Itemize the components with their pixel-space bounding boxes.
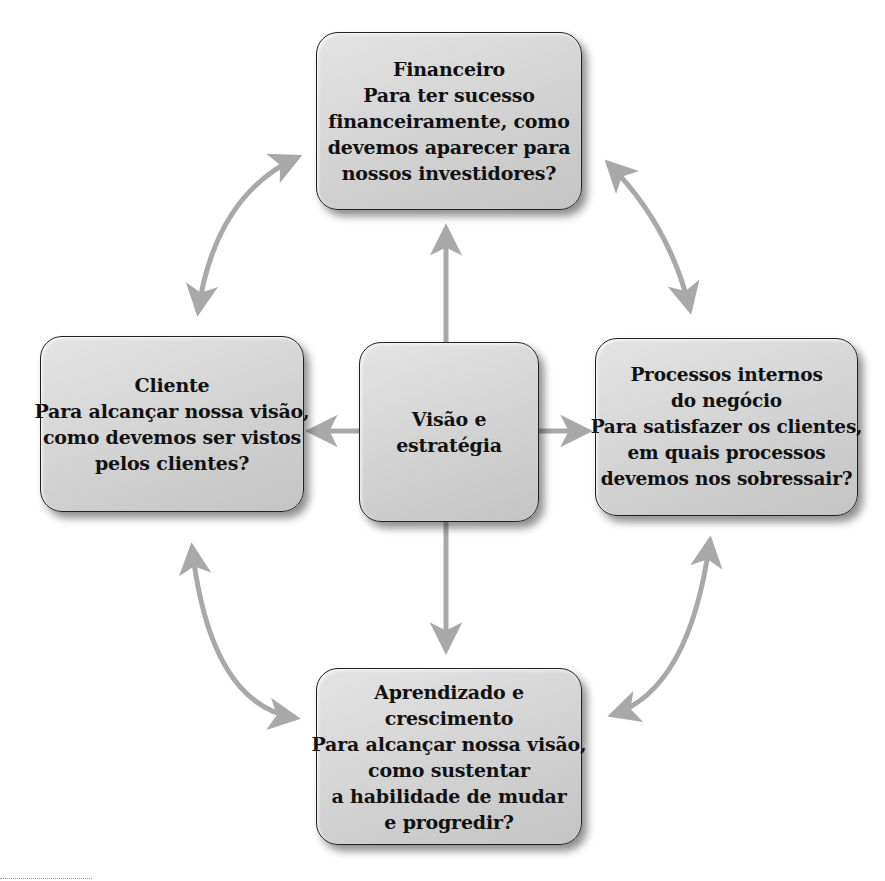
perspective-learning-growth-text: Aprendizado e crescimento Para alcançar … xyxy=(312,679,587,835)
perspective-title: crescimento xyxy=(385,705,513,731)
perspective-customer-text: Cliente Para alcançar nossa visão, como … xyxy=(35,372,310,476)
perspective-customer-box: Cliente Para alcançar nossa visão, como … xyxy=(40,336,304,512)
curved-arrow-right-bottom xyxy=(612,540,710,715)
perspective-financial-box: Financeiro Para ter sucesso financeirame… xyxy=(316,32,582,210)
perspective-internal-process-box: Processos internos do negócio Para satis… xyxy=(595,338,858,516)
perspective-question-line: devemos nos sobressair? xyxy=(601,466,853,492)
perspective-question-line: financeiramente, como xyxy=(328,108,569,134)
perspective-question-line: como sustentar xyxy=(368,757,530,783)
curved-arrow-left-top xyxy=(198,157,298,312)
perspective-question-line: pelos clientes? xyxy=(95,450,249,476)
perspective-internal-process-text: Processos internos do negócio Para satis… xyxy=(591,362,863,492)
perspective-title: do negócio xyxy=(671,388,782,414)
perspective-question-line: e progredir? xyxy=(384,809,513,835)
curved-arrow-top-right xyxy=(608,163,690,310)
dotted-rule-divider xyxy=(0,878,92,880)
perspective-question-line: em quais processos xyxy=(627,440,825,466)
vision-strategy-text: Visão e estratégia xyxy=(396,406,502,458)
perspective-question-line: nossos investidores? xyxy=(342,160,557,186)
center-label-line: estratégia xyxy=(396,432,502,458)
balanced-scorecard-diagram: Financeiro Para ter sucesso financeirame… xyxy=(0,0,885,881)
perspective-financial-text: Financeiro Para ter sucesso financeirame… xyxy=(328,56,571,186)
perspective-title: Financeiro xyxy=(393,56,505,82)
perspective-question-line: Para alcançar nossa visão, xyxy=(312,731,587,757)
perspective-title: Processos internos xyxy=(630,362,822,388)
perspective-learning-growth-box: Aprendizado e crescimento Para alcançar … xyxy=(316,668,582,845)
perspective-title: Cliente xyxy=(135,372,210,398)
perspective-question-line: devemos aparecer para xyxy=(328,134,571,160)
perspective-question-line: a habilidade de mudar xyxy=(332,783,567,809)
perspective-question-line: Para ter sucesso xyxy=(363,82,535,108)
vision-strategy-box: Visão e estratégia xyxy=(359,342,539,522)
curved-arrow-left-bottom xyxy=(192,547,296,718)
center-label-line: Visão e xyxy=(412,406,487,432)
perspective-question-line: como devemos ser vistos xyxy=(43,424,301,450)
perspective-question-line: Para satisfazer os clientes, xyxy=(591,414,863,440)
perspective-title: Aprendizado e xyxy=(374,679,524,705)
perspective-question-line: Para alcançar nossa visão, xyxy=(35,398,310,424)
